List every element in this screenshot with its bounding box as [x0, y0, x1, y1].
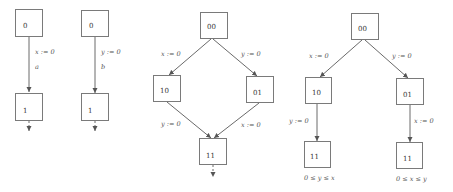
node-d-11-left-label: 11 [310, 153, 319, 161]
node-c-11-label: 11 [206, 152, 215, 160]
node-a-1-label: 1 [23, 107, 27, 115]
node-d-11-right-label: 11 [403, 155, 412, 163]
node-c-10-label: 10 [160, 87, 169, 95]
node-a-0-label: 0 [23, 22, 27, 30]
node-a-1 [16, 94, 43, 121]
node-b-0-label: 0 [89, 22, 93, 30]
edge-d-00-01-label: y := 0 [391, 52, 412, 60]
condition-left: 0 ≤ y ≤ x [304, 174, 335, 182]
edge-c-01-11-label: x := 0 [241, 121, 261, 129]
diagram-c: 00 x := 0 y := 0 10 01 y := 0 x := 0 11 [154, 13, 274, 178]
node-d-01-label: 01 [403, 91, 412, 99]
node-b-1-label: 1 [88, 107, 92, 115]
edge-d-10-11-label: y := 0 [288, 117, 309, 125]
diagram-a: 0 x := 0 a 1 [16, 10, 55, 132]
node-b-0 [82, 11, 109, 37]
edge-b-label: y := 0 [100, 48, 121, 56]
automata-diagrams: 0 x := 0 a 1 0 y := 0 b 1 00 x := 0 y :=… [0, 0, 453, 192]
edge-b-action: b [101, 63, 105, 71]
condition-right: 0 ≤ x ≤ y [396, 175, 427, 183]
edge-c-00-01-label: y := 0 [240, 50, 261, 58]
node-b-1 [82, 94, 109, 121]
node-d-10-label: 10 [312, 89, 321, 97]
diagram-b: 0 y := 0 b 1 [82, 11, 121, 132]
edge-c-00-10-label: x := 0 [161, 50, 181, 58]
edge-a-action: a [35, 63, 39, 71]
edge-d-01-11-label: x := 0 [414, 117, 434, 125]
node-a-0 [16, 10, 43, 37]
edge-c-10-11-label: y := 0 [160, 120, 181, 128]
diagram-d: 00 x := 0 y := 0 10 01 y := 0 x := 0 11 … [288, 14, 434, 184]
edge-d-00-10-label: x := 0 [309, 52, 329, 60]
node-d-00-label: 00 [358, 25, 367, 33]
edge-a-label: x := 0 [35, 48, 55, 56]
node-c-01-label: 01 [253, 89, 262, 97]
node-c-00-label: 00 [207, 23, 216, 31]
